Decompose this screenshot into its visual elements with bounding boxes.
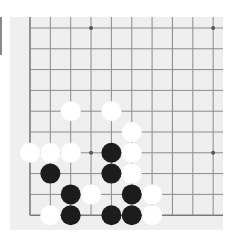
white-stone[interactable] <box>142 184 162 204</box>
white-stone[interactable] <box>101 101 121 121</box>
black-stone[interactable] <box>101 205 121 225</box>
black-stone[interactable] <box>122 205 142 225</box>
white-stone[interactable] <box>61 101 81 121</box>
white-stone[interactable] <box>142 205 162 225</box>
black-stone[interactable] <box>61 184 81 204</box>
go-diagram <box>0 0 240 252</box>
white-stone[interactable] <box>122 164 142 184</box>
star-point <box>211 26 215 30</box>
black-stone[interactable] <box>101 143 121 163</box>
black-stone[interactable] <box>40 164 60 184</box>
star-point <box>89 26 93 30</box>
star-point <box>89 151 93 155</box>
white-stone[interactable] <box>20 143 40 163</box>
black-stone[interactable] <box>61 205 81 225</box>
white-stone[interactable] <box>61 143 81 163</box>
white-stone[interactable] <box>81 184 101 204</box>
white-stone[interactable] <box>40 143 60 163</box>
black-stone[interactable] <box>101 164 121 184</box>
go-board[interactable] <box>10 17 223 230</box>
star-point <box>211 151 215 155</box>
board-grid <box>10 17 223 230</box>
black-stone[interactable] <box>122 184 142 204</box>
white-stone[interactable] <box>122 143 142 163</box>
white-stone[interactable] <box>122 122 142 142</box>
white-stone[interactable] <box>40 205 60 225</box>
side-panel-edge <box>0 17 2 55</box>
